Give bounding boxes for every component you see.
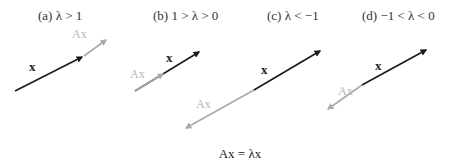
x-vector-arrow	[362, 50, 426, 85]
x-label: x	[261, 62, 268, 77]
ax-label: Ax	[130, 67, 145, 81]
panel-b: (b) 1 > λ > 0 x Ax	[130, 8, 218, 91]
x-label: x	[166, 50, 173, 65]
ax-label: Ax	[72, 27, 87, 41]
x-label: x	[29, 59, 36, 74]
panel-c-title: (c) λ < −1	[267, 8, 319, 23]
panel-d-title: (d) −1 < λ < 0	[362, 8, 435, 23]
eigen-equation: Ax = λx	[219, 146, 262, 161]
panel-a: (a) λ > 1 x Ax	[15, 8, 106, 91]
eigenvector-diagram: (a) λ > 1 x Ax (b) 1 > λ > 0 x Ax (c) λ …	[0, 0, 456, 162]
x-vector-arrow	[15, 57, 82, 91]
panel-d: (d) −1 < λ < 0 x Ax	[328, 8, 435, 109]
ax-label: Ax	[338, 84, 353, 98]
ax-vector-arrow	[84, 40, 106, 56]
panel-c: (c) λ < −1 x Ax	[186, 8, 320, 128]
panel-b-title: (b) 1 > λ > 0	[153, 8, 218, 23]
x-label: x	[375, 58, 382, 73]
ax-label: Ax	[196, 97, 211, 111]
panel-a-title: (a) λ > 1	[38, 8, 82, 23]
